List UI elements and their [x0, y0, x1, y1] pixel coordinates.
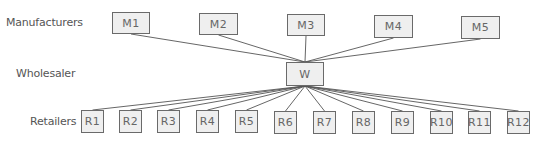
retailer-node-r12: R12 — [507, 111, 530, 134]
manufacturer-node-m5: M5 — [461, 16, 500, 39]
retailer-node-r1: R1 — [81, 110, 104, 133]
retailer-node-r3: R3 — [157, 110, 180, 133]
retailer-node-r8: R8 — [352, 111, 375, 134]
retailer-node-r11: R11 — [468, 111, 491, 134]
retailer-node-r6: R6 — [274, 111, 297, 134]
retailer-node-r7: R7 — [313, 111, 336, 134]
retailer-node-r4: R4 — [196, 110, 219, 133]
wholesaler-node: W — [286, 62, 324, 86]
manufacturer-node-m3: M3 — [287, 14, 325, 36]
retailer-node-r2: R2 — [119, 110, 142, 133]
manufacturer-node-m2: M2 — [199, 13, 238, 35]
retailer-node-r5: R5 — [235, 110, 258, 133]
manufacturer-node-m4: M4 — [374, 15, 413, 38]
retailer-node-r10: R10 — [430, 111, 453, 134]
retailer-node-r9: R9 — [391, 111, 414, 134]
manufacturer-node-m1: M1 — [112, 12, 150, 34]
